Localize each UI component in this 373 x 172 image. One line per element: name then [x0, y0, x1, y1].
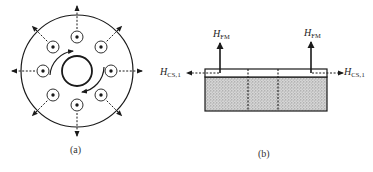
circled-dot-icon	[71, 99, 83, 111]
hfm-label-left: HFM	[213, 28, 230, 40]
panel-a-disk	[12, 6, 142, 136]
diagram-canvas	[0, 0, 373, 172]
circled-dot-icon	[47, 89, 59, 101]
rotation-arrow-icon	[82, 67, 104, 92]
circled-dot-icon	[71, 31, 83, 43]
center-hole-circle	[62, 56, 92, 86]
hcs-label-right: HCS,1	[344, 66, 365, 78]
top-thin-layer	[205, 69, 327, 77]
hfm-label-right: HFM	[304, 27, 321, 39]
circled-dot-icon	[47, 41, 59, 53]
circled-dot-icon	[95, 41, 107, 53]
radial-field-arrows	[12, 6, 142, 136]
hcs-label-left: HCS,1	[160, 66, 181, 78]
panel-a-caption: (a)	[70, 144, 81, 155]
dot-sites	[37, 31, 117, 111]
circled-dot-icon	[105, 65, 117, 77]
circled-dot-icon	[95, 89, 107, 101]
panel-b-cross-section	[187, 42, 343, 111]
circled-dot-icon	[37, 65, 49, 77]
panel-b-caption: (b)	[258, 148, 270, 159]
substrate-layer	[205, 77, 327, 111]
